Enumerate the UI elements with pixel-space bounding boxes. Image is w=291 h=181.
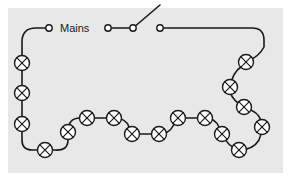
lamp-9 [152, 127, 167, 142]
diagram-root: Mains [0, 0, 291, 181]
mains-terminal-icon [46, 25, 52, 31]
lamp-11 [198, 111, 213, 126]
switch-right-terminal-icon [157, 25, 163, 31]
switch-left-terminal-icon [105, 25, 111, 31]
lamp-3 [15, 117, 30, 132]
circuit-schematic: Mains [0, 0, 291, 181]
lamp-14 [255, 120, 270, 135]
lamp-17 [239, 55, 254, 70]
lamp-1 [15, 56, 30, 71]
lamp-2 [15, 86, 30, 101]
mains-label: Mains [60, 22, 90, 34]
switch-pivot-terminal-icon [130, 25, 136, 31]
wire-right-branch [160, 28, 264, 150]
lamp-15 [237, 100, 252, 115]
lamp-8 [125, 127, 140, 142]
lamp-7 [107, 111, 122, 126]
lamp-6 [80, 111, 95, 126]
lamp-10 [171, 111, 186, 126]
lamp-13 [232, 143, 247, 158]
lamp-16 [223, 80, 238, 95]
lamp-4 [38, 143, 53, 158]
lamp-12 [215, 127, 230, 142]
switch-lever-icon[interactable] [133, 5, 160, 28]
lamp-5 [61, 125, 76, 140]
